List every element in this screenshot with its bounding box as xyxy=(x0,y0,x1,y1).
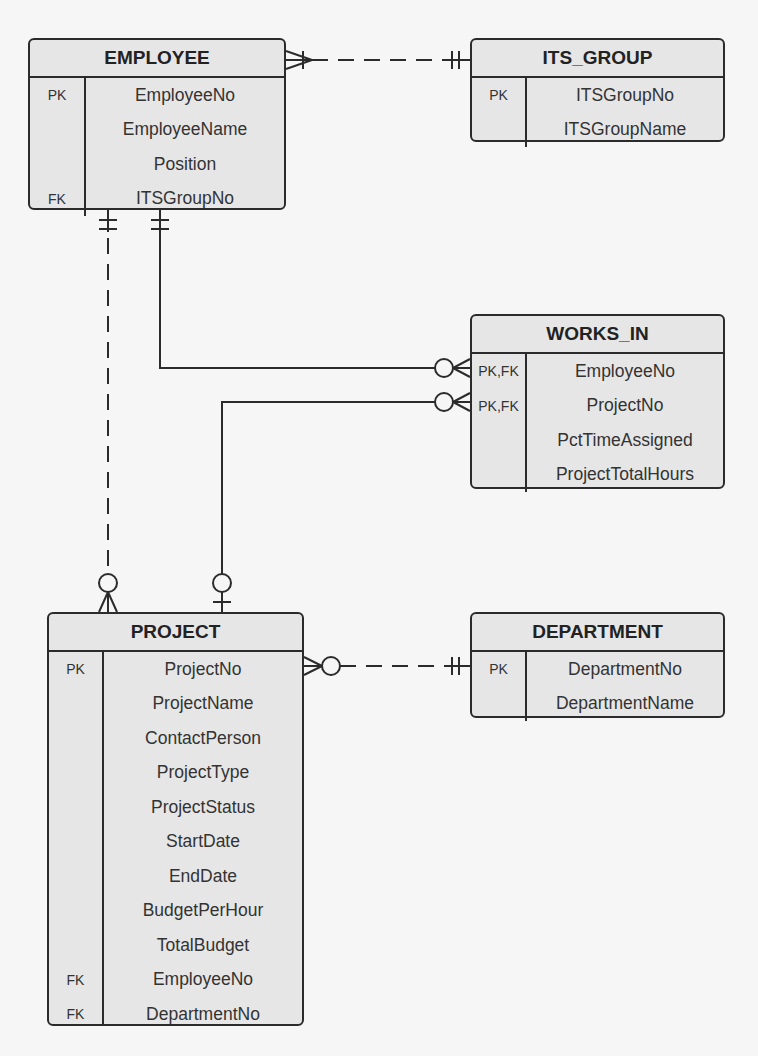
attribute: TotalBudget xyxy=(104,928,302,963)
key-label xyxy=(49,894,102,929)
key-label xyxy=(472,113,525,148)
key-label xyxy=(472,423,525,458)
key-label: FK xyxy=(49,963,102,998)
key-label xyxy=(49,790,102,825)
key-label xyxy=(49,928,102,963)
key-label: PK,FK xyxy=(472,389,525,424)
attribute: DepartmentName xyxy=(527,687,723,722)
entity-title: ITS_GROUP xyxy=(472,40,723,78)
entity-title: WORKS_IN xyxy=(472,316,723,354)
attribute: EmployeeNo xyxy=(86,78,284,113)
attribute: BudgetPerHour xyxy=(104,894,302,929)
key-label: PK xyxy=(30,78,84,113)
attribute: ITSGroupNo xyxy=(86,182,284,217)
attribute: ProjectNo xyxy=(527,389,723,424)
entity-department[interactable]: DEPARTMENT PK DepartmentNo DepartmentNam… xyxy=(470,612,725,718)
entity-works-in[interactable]: WORKS_IN PK,FK PK,FK EmployeeNo ProjectN… xyxy=(470,314,725,489)
attribute: EndDate xyxy=(104,859,302,894)
attribute: ContactPerson xyxy=(104,721,302,756)
attribute: ProjectType xyxy=(104,756,302,791)
key-label: FK xyxy=(49,997,102,1032)
attribute: StartDate xyxy=(104,825,302,860)
entity-its-group[interactable]: ITS_GROUP PK ITSGroupNo ITSGroupName xyxy=(470,38,725,142)
attribute: ITSGroupNo xyxy=(527,78,723,113)
attribute: EmployeeNo xyxy=(527,354,723,389)
attribute: DepartmentNo xyxy=(527,652,723,687)
rel-employee-project[interactable] xyxy=(99,210,117,612)
key-label xyxy=(30,147,84,182)
rel-employee-works-in[interactable] xyxy=(151,210,470,377)
attribute: ProjectStatus xyxy=(104,790,302,825)
key-label: PK xyxy=(49,652,102,687)
key-label xyxy=(472,687,525,722)
entity-employee[interactable]: EMPLOYEE PK FK EmployeeNo EmployeeName P… xyxy=(28,38,286,210)
attribute: Position xyxy=(86,147,284,182)
attribute: ITSGroupName xyxy=(527,113,723,148)
key-label: FK xyxy=(30,182,84,217)
attribute: EmployeeNo xyxy=(104,963,302,998)
attribute: DepartmentNo xyxy=(104,997,302,1032)
attribute: ProjectName xyxy=(104,687,302,722)
key-label xyxy=(49,825,102,860)
key-label xyxy=(49,687,102,722)
key-label: PK,FK xyxy=(472,354,525,389)
key-label xyxy=(49,756,102,791)
rel-employee-its-group[interactable] xyxy=(286,51,470,69)
key-label xyxy=(472,458,525,493)
attribute: ProjectTotalHours xyxy=(527,458,723,493)
rel-project-department[interactable] xyxy=(304,657,470,675)
attribute: PctTimeAssigned xyxy=(527,423,723,458)
key-label xyxy=(30,113,84,148)
key-label xyxy=(49,721,102,756)
rel-project-works-in[interactable] xyxy=(213,393,470,612)
key-label: PK xyxy=(472,652,525,687)
entity-title: EMPLOYEE xyxy=(30,40,284,78)
attribute: ProjectNo xyxy=(104,652,302,687)
key-label: PK xyxy=(472,78,525,113)
entity-title: PROJECT xyxy=(49,614,302,652)
entity-title: DEPARTMENT xyxy=(472,614,723,652)
key-label xyxy=(49,859,102,894)
entity-project[interactable]: PROJECT PK FK FK ProjectNo ProjectName C… xyxy=(47,612,304,1026)
attribute: EmployeeName xyxy=(86,113,284,148)
